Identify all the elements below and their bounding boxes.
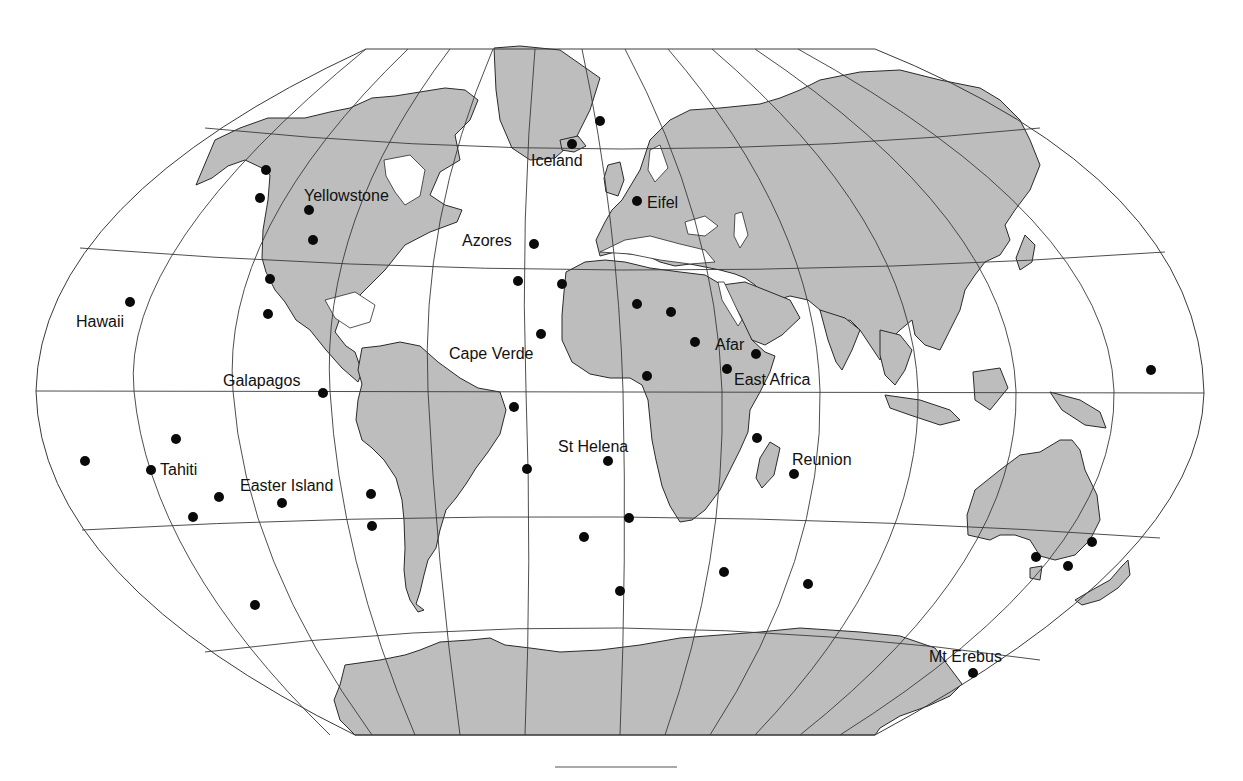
hotspot-dot xyxy=(642,371,652,381)
label-st-helena: St Helena xyxy=(558,438,628,455)
hotspot-dot xyxy=(719,567,729,577)
hotspot-dot xyxy=(188,512,198,522)
hotspot-dot xyxy=(125,297,135,307)
hotspot-dot xyxy=(261,165,271,175)
parallel-equator xyxy=(36,391,1204,393)
hotspot-dot xyxy=(1087,537,1097,547)
label-mt-erebus: Mt Erebus xyxy=(929,648,1002,665)
hotspot-dot xyxy=(632,196,642,206)
hotspot-dot xyxy=(80,456,90,466)
hotspot-dot xyxy=(789,469,799,479)
label-cape-verde: Cape Verde xyxy=(449,345,534,362)
hotspot-dot xyxy=(536,329,546,339)
hotspot-dot xyxy=(263,309,273,319)
label-easter-island: Easter Island xyxy=(240,477,333,494)
hotspot-dot xyxy=(366,489,376,499)
label-reunion: Reunion xyxy=(792,451,852,468)
hotspot-dot xyxy=(1063,561,1073,571)
hotspot-dot xyxy=(513,276,523,286)
landmass-japan xyxy=(1016,235,1035,270)
hotspot-dot xyxy=(595,116,605,126)
label-eifel: Eifel xyxy=(647,194,678,211)
hotspot-dot xyxy=(529,239,539,249)
hotspot-dot xyxy=(1031,552,1041,562)
hotspot-dot xyxy=(615,586,625,596)
label-afar: Afar xyxy=(715,336,745,353)
hotspot-dot xyxy=(308,235,318,245)
landmass-north-america xyxy=(196,88,478,382)
hotspot-dot xyxy=(250,600,260,610)
hotspot-dot xyxy=(803,579,813,589)
landmass-south-america xyxy=(356,342,506,612)
hotspot-dot xyxy=(666,307,676,317)
hotspot-dot xyxy=(968,668,978,678)
hotspot-dot xyxy=(265,274,275,284)
landmass-australia xyxy=(967,440,1100,560)
label-iceland: Iceland xyxy=(531,152,583,169)
label-hawaii: Hawaii xyxy=(76,313,124,330)
landmass-madagascar xyxy=(756,442,780,488)
label-azores: Azores xyxy=(462,232,512,249)
hotspot-dot xyxy=(367,521,377,531)
hotspot-dot xyxy=(522,464,532,474)
hotspot-dot xyxy=(318,388,328,398)
landmass-new-guinea xyxy=(1050,392,1106,428)
hotspot-dot xyxy=(557,279,567,289)
hotspot-dot xyxy=(579,532,589,542)
hotspot-dot xyxy=(722,364,732,374)
hotspot-dot xyxy=(567,139,577,149)
hotspot-dot xyxy=(214,492,224,502)
hotspot-dot xyxy=(624,513,634,523)
hotspot-dot xyxy=(304,205,314,215)
hotspot-dot xyxy=(632,299,642,309)
hotspot-dot xyxy=(1146,365,1156,375)
hotspot-dot xyxy=(603,456,613,466)
hotspot-dot xyxy=(509,402,519,412)
landmass-borneo xyxy=(973,368,1008,410)
landmass-tasmania xyxy=(1030,566,1042,580)
label-east-africa: East Africa xyxy=(734,371,811,388)
hotspot-dot xyxy=(255,193,265,203)
landmass-uk xyxy=(604,162,624,196)
hotspot-dot xyxy=(171,434,181,444)
continents xyxy=(196,46,1130,735)
world-hotspot-map: IcelandYellowstoneEifelAzoresHawaiiCape … xyxy=(0,0,1243,781)
hotspot-dot xyxy=(277,498,287,508)
hotspot-dot xyxy=(752,433,762,443)
landmass-new-zealand xyxy=(1075,560,1130,605)
landmass-antarctica xyxy=(334,628,962,735)
hotspot-dot xyxy=(146,465,156,475)
hotspot-dot xyxy=(751,349,761,359)
landmass-se-asia xyxy=(880,330,912,385)
hotspot-dot xyxy=(690,337,700,347)
label-yellowstone: Yellowstone xyxy=(304,187,389,204)
landmass-indonesia xyxy=(885,395,960,425)
label-tahiti: Tahiti xyxy=(160,461,197,478)
label-galapagos: Galapagos xyxy=(223,372,300,389)
